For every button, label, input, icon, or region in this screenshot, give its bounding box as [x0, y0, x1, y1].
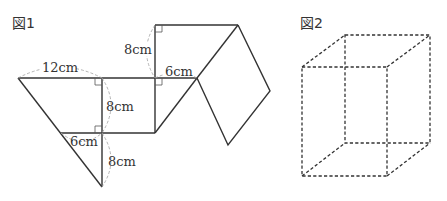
- diagram-canvas: 図1 12cm 8cm: [0, 0, 447, 201]
- figure2-label: 図2: [300, 15, 323, 31]
- dimension-label-lower-width: 6cm: [70, 134, 98, 149]
- figure1-label: 図1: [12, 15, 35, 31]
- net-edge-lower-diagonal: [155, 78, 197, 133]
- cube-edge: [302, 143, 345, 176]
- dimension-label-upper-height: 8cm: [124, 42, 152, 57]
- dimension-label-middle-height: 8cm: [106, 99, 134, 114]
- right-angle-marker: [155, 78, 162, 85]
- dimension-label-top-width: 12cm: [42, 60, 78, 75]
- right-angle-marker: [95, 126, 102, 133]
- cube-back-face: [345, 35, 430, 143]
- cube-edge: [302, 35, 345, 67]
- figure1-net: 12cm 8cm 6cm 8cm 6cm 8cm: [18, 25, 270, 187]
- cube-edge: [387, 143, 430, 176]
- net-face-right-quad: [197, 25, 270, 145]
- right-angle-marker: [155, 25, 162, 32]
- dimension-label-lower-height: 8cm: [108, 154, 136, 169]
- right-angle-marker: [95, 78, 102, 85]
- dimension-label-middle-width: 6cm: [165, 64, 193, 79]
- figure2-cube: [302, 35, 430, 176]
- net-edge-upper-diagonal: [197, 25, 238, 78]
- cube-edge: [387, 35, 430, 67]
